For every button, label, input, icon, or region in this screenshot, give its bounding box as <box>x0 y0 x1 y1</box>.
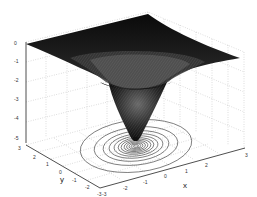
svg-text:0: 0 <box>14 40 17 46</box>
svg-text:2: 2 <box>205 162 208 168</box>
svg-text:-5: -5 <box>14 135 19 141</box>
svg-text:3: 3 <box>18 145 21 151</box>
svg-text:1: 1 <box>46 161 49 167</box>
svg-text:-1: -1 <box>14 58 19 64</box>
surface-mesh <box>26 14 240 141</box>
y-axis-ticks: 3 2 1 0 -1 -2 -3 <box>18 145 102 197</box>
x-axis-line <box>100 148 245 188</box>
svg-text:-1: -1 <box>143 179 148 185</box>
svg-text:-3: -3 <box>102 191 107 197</box>
y-axis-label: y <box>60 175 64 184</box>
z-axis-ticks: 0 -1 -2 -3 -4 -5 <box>14 40 19 141</box>
svg-text:-2: -2 <box>85 184 90 190</box>
svg-text:-4: -4 <box>14 115 19 121</box>
svg-text:-3: -3 <box>97 191 102 197</box>
surface-plot: 0 -1 -2 -3 -4 -5 3 2 1 0 -1 -2 -3 y -3 -… <box>0 0 257 197</box>
svg-text:3: 3 <box>245 152 248 158</box>
svg-text:-3: -3 <box>14 96 19 102</box>
svg-text:-1: -1 <box>72 177 77 183</box>
x-axis-label: x <box>183 181 187 190</box>
svg-text:1: 1 <box>185 168 188 174</box>
svg-text:-2: -2 <box>14 77 19 83</box>
svg-text:2: 2 <box>33 154 36 160</box>
svg-text:-2: -2 <box>123 185 128 191</box>
svg-text:0: 0 <box>164 173 167 179</box>
